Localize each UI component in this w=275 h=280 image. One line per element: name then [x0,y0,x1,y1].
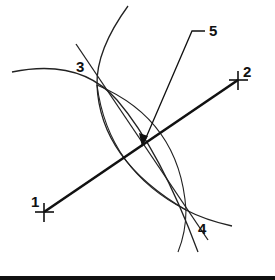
arc-lens-right [97,85,186,252]
label-point-5: 5 [209,22,217,39]
label-point-4: 4 [198,220,207,237]
label-point-2: 2 [243,63,251,80]
bottom-rule-divider [0,276,275,280]
bisector-diagram: 1 2 3 4 5 [0,0,275,280]
segment-1-2 [44,80,238,212]
label-point-3: 3 [76,58,84,75]
arc-centered-point-2 [12,69,198,253]
arc-centered-point-1 [97,6,232,226]
label-point-1: 1 [31,193,39,210]
